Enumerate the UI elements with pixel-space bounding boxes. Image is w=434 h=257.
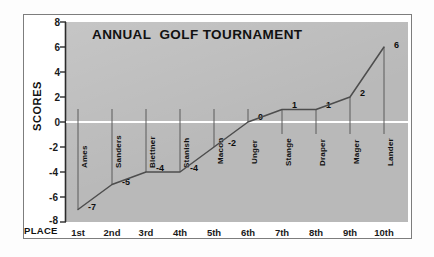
- score-line: [78, 47, 384, 210]
- figure-canvas: SCORES PLACE ANNUAL GOLF TOURNAMENT 8 6 …: [0, 0, 434, 257]
- point-stems: [78, 47, 384, 210]
- chart-graphics: [0, 0, 434, 257]
